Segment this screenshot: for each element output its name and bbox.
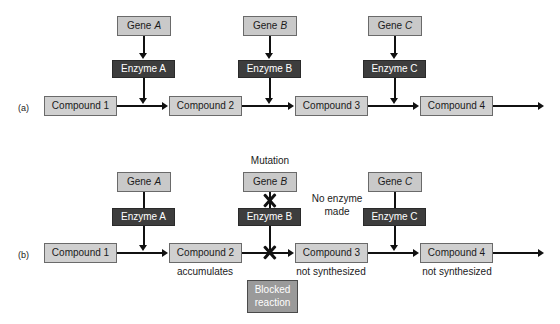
compound-box-a4: Compound 4 bbox=[420, 96, 493, 116]
connector-enzyme-reaction-b3 bbox=[394, 226, 396, 247]
reaction-arrow-a4 bbox=[493, 105, 539, 107]
blocked-reaction-line1: Blocked bbox=[255, 284, 291, 297]
panel-label-a: (a) bbox=[18, 103, 29, 113]
compound-note-b3: not synthesized bbox=[296, 266, 366, 279]
connector-enzyme-reaction-a2 bbox=[269, 78, 271, 99]
gene-box-a2: GeneB bbox=[243, 16, 297, 36]
arrowhead-enzyme-reaction-a2 bbox=[265, 98, 273, 104]
arrowhead-gene-enzyme-a3 bbox=[390, 53, 398, 59]
connector-gene-enzyme-a3 bbox=[394, 36, 396, 54]
gene-label-letter: B bbox=[277, 176, 287, 187]
compound-box-a1: Compound 1 bbox=[44, 96, 117, 116]
arrowhead-reaction-a1 bbox=[162, 102, 168, 110]
gene-label-text: Gene bbox=[253, 176, 277, 187]
arrowhead-reaction-b2 bbox=[288, 249, 294, 257]
gene-box-b3: GeneC bbox=[368, 172, 422, 192]
enzyme-box-a2: Enzyme B bbox=[238, 60, 301, 78]
connector-gene-enzyme-a1 bbox=[143, 36, 145, 54]
gene-label-text: Gene bbox=[378, 176, 402, 187]
compound-box-b3: Compound 3 bbox=[295, 243, 368, 263]
gene-label-letter: C bbox=[402, 20, 412, 31]
no-enzyme-made-line1: No enzyme bbox=[303, 193, 371, 206]
connector-enzyme-reaction-a3 bbox=[394, 78, 396, 99]
blocked-reaction-line2: reaction bbox=[255, 297, 291, 310]
blocked-x-icon-gene-enzyme bbox=[261, 192, 278, 209]
no-enzyme-made-label: No enzyme made bbox=[303, 193, 371, 218]
enzyme-box-a3: Enzyme C bbox=[363, 60, 426, 78]
gene-label-letter: B bbox=[277, 20, 287, 31]
panel-label-b: (b) bbox=[18, 250, 29, 260]
compound-box-b2: Compound 2 bbox=[169, 243, 242, 263]
gene-label-text: Gene bbox=[127, 20, 151, 31]
no-enzyme-made-line2: made bbox=[303, 206, 371, 219]
arrowhead-reaction-a2 bbox=[288, 102, 294, 110]
enzyme-box-b3: Enzyme C bbox=[363, 208, 426, 226]
gene-box-b1: GeneA bbox=[117, 172, 171, 192]
blocked-reaction-box: Blocked reaction bbox=[247, 280, 298, 313]
enzyme-box-b1: Enzyme A bbox=[112, 208, 175, 226]
gene-box-a3: GeneC bbox=[368, 16, 422, 36]
reaction-arrow-b3 bbox=[368, 252, 414, 254]
compound-box-a2: Compound 2 bbox=[169, 96, 242, 116]
arrowhead-reaction-b1 bbox=[162, 249, 168, 257]
arrowhead-gene-enzyme-a1 bbox=[139, 53, 147, 59]
arrowhead-gene-enzyme-a2 bbox=[265, 53, 273, 59]
reaction-arrow-b1 bbox=[117, 252, 163, 254]
compound-note-b4: not synthesized bbox=[422, 266, 492, 279]
gene-label-text: Gene bbox=[378, 20, 402, 31]
arrowhead-enzyme-reaction-a3 bbox=[390, 98, 398, 104]
compound-box-b1: Compound 1 bbox=[44, 243, 117, 263]
arrowhead-reaction-a3 bbox=[413, 102, 419, 110]
connector-enzyme-reaction-b1 bbox=[143, 226, 145, 247]
compound-note-b2: accumulates bbox=[177, 266, 233, 279]
gene-box-b2: GeneB bbox=[243, 172, 297, 192]
mutation-label: Mutation bbox=[251, 155, 289, 168]
arrowhead-enzyme-reaction-a1 bbox=[139, 98, 147, 104]
connector-gene-enzyme-a2 bbox=[269, 36, 271, 54]
arrowhead-reaction-b3 bbox=[413, 249, 419, 257]
reaction-arrow-a2 bbox=[242, 105, 289, 107]
reaction-arrow-a1 bbox=[117, 105, 163, 107]
gene-label-text: Gene bbox=[127, 176, 151, 187]
reaction-arrow-a3 bbox=[368, 105, 414, 107]
gene-label-letter: A bbox=[151, 176, 161, 187]
arrowhead-enzyme-reaction-b3 bbox=[390, 245, 398, 251]
blocked-x-icon-reaction bbox=[261, 244, 278, 261]
pathway-figure: (a) GeneA GeneB GeneC Enzyme A Enzyme B … bbox=[0, 0, 560, 324]
reaction-arrow-b4 bbox=[493, 252, 539, 254]
enzyme-box-a1: Enzyme A bbox=[112, 60, 175, 78]
enzyme-box-b2: Enzyme B bbox=[238, 208, 301, 226]
arrowhead-reaction-a4 bbox=[538, 102, 544, 110]
arrowhead-enzyme-reaction-b1 bbox=[139, 245, 147, 251]
connector-enzyme-reaction-a1 bbox=[143, 78, 145, 99]
gene-label-text: Gene bbox=[253, 20, 277, 31]
gene-label-letter: A bbox=[151, 20, 161, 31]
gene-label-letter: C bbox=[402, 176, 412, 187]
compound-box-b4: Compound 4 bbox=[420, 243, 493, 263]
arrowhead-reaction-b4 bbox=[538, 249, 544, 257]
gene-box-a1: GeneA bbox=[117, 16, 171, 36]
compound-box-a3: Compound 3 bbox=[295, 96, 368, 116]
